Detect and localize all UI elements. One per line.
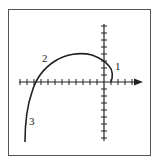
region-label-1: 1 <box>115 60 121 72</box>
region-label-2: 2 <box>42 52 48 64</box>
x-axis-arrow-icon <box>134 79 143 86</box>
curve-diagram: 1 2 3 <box>0 0 160 166</box>
region-label-3: 3 <box>29 115 35 127</box>
curve-path <box>25 54 112 142</box>
